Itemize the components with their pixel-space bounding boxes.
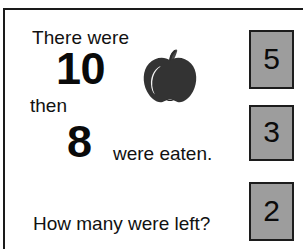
answer-choice-box-1[interactable]: 5 bbox=[249, 30, 294, 89]
problem-second-number: 8 bbox=[67, 119, 92, 164]
answer-choice-box-3[interactable]: 2 bbox=[249, 182, 294, 241]
problem-question-text: How many were left? bbox=[33, 213, 210, 235]
problem-action-text: were eaten. bbox=[113, 143, 212, 165]
worksheet-page: There were 10 then 8 were eaten. How man… bbox=[0, 0, 303, 249]
apple-icon bbox=[139, 46, 201, 106]
word-problem: There were 10 then 8 were eaten. How man… bbox=[0, 0, 245, 249]
answer-choice-label: 3 bbox=[263, 117, 280, 149]
problem-first-number: 10 bbox=[56, 46, 105, 91]
problem-connector-text: then bbox=[30, 95, 67, 117]
answer-choice-label: 2 bbox=[263, 196, 280, 228]
answer-choice-label: 5 bbox=[263, 44, 280, 76]
answer-choice-box-2[interactable]: 3 bbox=[249, 105, 294, 161]
